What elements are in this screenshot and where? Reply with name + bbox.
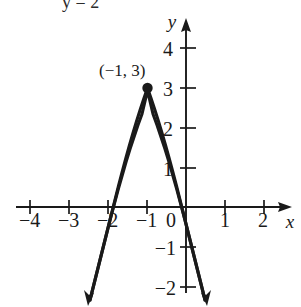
figure-page: y = 2 [0, 0, 301, 307]
y-axis-arrow [181, 18, 191, 32]
y-tick-label-neg1: −1 [155, 237, 176, 259]
x-tick-label-neg1: −1 [136, 209, 157, 231]
y-tick-label-pos4: 4 [163, 38, 173, 60]
x-tick-label-neg3: −3 [58, 209, 79, 231]
x-tick-label-pos2: 2 [258, 209, 268, 231]
y-axis-label: y [166, 11, 177, 32]
vertex-label: (−1, 3) [99, 61, 145, 80]
y-tick-label-neg2: −2 [155, 277, 176, 299]
y-tick-label-pos2: 2 [163, 118, 173, 140]
x-tick-label-pos1: 1 [220, 209, 230, 231]
parabola-graph: y = 2 [0, 0, 301, 307]
x-axis-label: x [285, 211, 295, 232]
parabola-curve [84, 88, 211, 306]
x-tick-label-neg4: −4 [19, 209, 40, 231]
vertex-point-marker [142, 83, 152, 93]
clipped-header-text: y = 2 [62, 0, 99, 12]
y-tick-label-pos1: 1 [163, 158, 173, 180]
y-tick-label-pos3: 3 [163, 78, 173, 100]
x-tick-label-neg2: −2 [97, 209, 118, 231]
x-tick-label-zero: 0 [166, 209, 176, 231]
